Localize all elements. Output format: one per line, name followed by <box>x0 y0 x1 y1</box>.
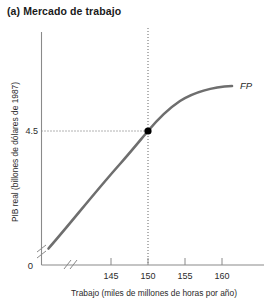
y-axis-title: PIB real (billones de dólares de 1987) <box>10 82 20 222</box>
equilibrium-point-marker <box>144 127 151 134</box>
figure-panel-a: (a) Mercado de trabajo 145 150 155 160 4… <box>0 0 267 305</box>
x-tick-label-150: 150 <box>140 271 155 281</box>
x-tick-label-145: 145 <box>103 271 118 281</box>
x-tick-label-155: 155 <box>177 271 192 281</box>
production-function-chart: 145 150 155 160 4.5 0 FP Trabajo (miles … <box>0 0 267 305</box>
origin-label: 0 <box>28 260 33 271</box>
x-axis-title: Trabajo (miles de millones de horas por … <box>71 288 237 298</box>
production-function-curve <box>49 86 233 249</box>
curve-label-fp: FP <box>240 80 253 91</box>
x-tick-label-160: 160 <box>214 271 229 281</box>
y-tick-label-4-5: 4.5 <box>25 126 38 136</box>
